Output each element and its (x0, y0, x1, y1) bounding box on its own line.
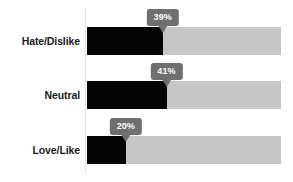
bar-rows: Hate/Dislike Neutral Love/Like (0, 0, 293, 182)
bar-row-hate-dislike: Hate/Dislike (0, 27, 293, 55)
value-callout-box: 20% (110, 118, 142, 135)
category-label-love-like: Love/Like (0, 136, 80, 164)
value-callout-neutral: 41% (150, 63, 182, 80)
bar-track-neutral (87, 81, 281, 109)
horizontal-bar-chart: Hate/Dislike Neutral Love/Like 39% 41% (0, 0, 293, 182)
bar-fill-neutral[interactable] (87, 81, 167, 109)
value-callout-text: 39% (154, 12, 172, 22)
bar-row-love-like: Love/Like (0, 136, 293, 164)
bar-track-love-like (87, 136, 281, 164)
value-callout-text: 20% (117, 121, 135, 131)
value-callout-hate-dislike: 39% (147, 9, 179, 26)
bar-track-hate-dislike (87, 27, 281, 55)
value-callout-text: 41% (157, 66, 175, 76)
value-callout-box: 39% (147, 9, 179, 26)
category-label-neutral: Neutral (0, 81, 80, 109)
value-callout-box: 41% (150, 63, 182, 80)
callout-pointer-icon (158, 25, 168, 33)
category-label-hate-dislike: Hate/Dislike (0, 27, 80, 55)
bar-row-neutral: Neutral (0, 81, 293, 109)
callout-pointer-icon (121, 134, 131, 142)
callout-pointer-icon (161, 79, 171, 87)
bar-fill-hate-dislike[interactable] (87, 27, 163, 55)
value-callout-love-like: 20% (110, 118, 142, 135)
